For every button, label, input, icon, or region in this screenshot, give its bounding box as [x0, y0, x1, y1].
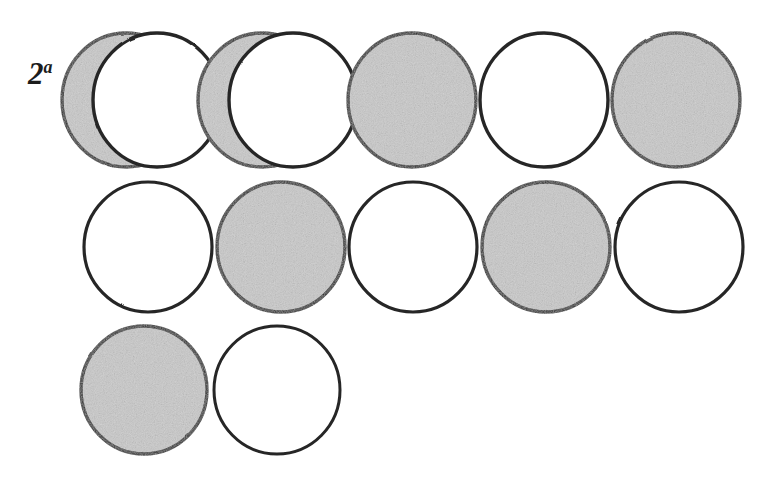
row-2-cell-4-circle-shaded[interactable]	[482, 182, 610, 312]
row-3-cell-1-circle-shaded[interactable]	[81, 326, 207, 454]
row-1-cell-4-circle-unshaded[interactable]	[480, 33, 608, 167]
row-1-cell-2-overlap-pair[interactable]	[198, 33, 357, 167]
row-label-base: 2	[28, 56, 44, 91]
row-1-cell-5-circle-shaded[interactable]	[612, 33, 740, 167]
row-2	[84, 182, 743, 312]
circle-diagram	[0, 0, 777, 490]
row-3-cell-2-circle-unshaded[interactable]	[214, 326, 340, 454]
circle-unshaded-front[interactable]	[229, 33, 357, 167]
row-2-cell-1-circle-unshaded[interactable]	[84, 182, 212, 312]
row-2-cell-3-circle-unshaded[interactable]	[349, 182, 477, 312]
row-2-cell-2-circle-shaded[interactable]	[217, 182, 345, 312]
row-2-cell-5-circle-unshaded[interactable]	[615, 182, 743, 312]
row-label: 2a	[28, 58, 52, 89]
figure-container: 2a	[0, 0, 777, 490]
row-label-superscript: a	[44, 57, 53, 77]
row-1-cell-3-circle-shaded[interactable]	[348, 33, 476, 167]
row-1	[62, 33, 740, 167]
